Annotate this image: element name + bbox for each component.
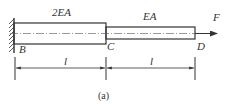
dimension-lines xyxy=(15,57,195,80)
label-d: D xyxy=(196,40,205,52)
label-f: F xyxy=(212,11,220,23)
label-b: B xyxy=(19,43,26,55)
fixed-wall xyxy=(9,18,14,53)
label-ea: EA xyxy=(142,10,157,22)
caption: (a) xyxy=(98,90,109,102)
label-length-bc: l xyxy=(64,55,67,67)
label-length-cd: l xyxy=(150,55,153,67)
segment-cd xyxy=(106,27,195,39)
label-c: C xyxy=(107,40,115,52)
label-2ea: 2EA xyxy=(52,6,71,18)
bar-diagram: 2EA EA F B C D l l (a) xyxy=(0,0,235,105)
